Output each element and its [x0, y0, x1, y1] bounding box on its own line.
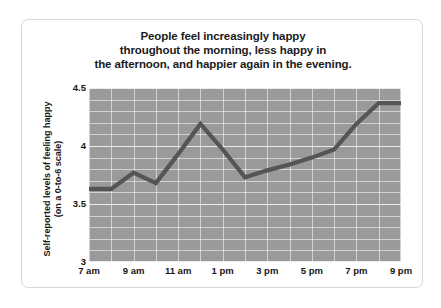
chart-card: People feel increasingly happy throughou…	[21, 19, 423, 288]
y-tick-label: 4	[60, 141, 86, 151]
chart-title-line-2: throughout the morning, less happy in	[22, 43, 424, 57]
happiness-line-series	[89, 88, 401, 262]
chart-title: People feel increasingly happy throughou…	[22, 29, 424, 72]
chart-title-line-3: the afternoon, and happier again in the …	[22, 57, 424, 71]
y-axis-tick-labels: 4.543.53	[56, 88, 86, 262]
x-tick-label: 9 am	[112, 265, 156, 276]
y-tick-label: 3.5	[60, 199, 86, 209]
x-tick-label: 7 am	[67, 265, 111, 276]
y-tick-label: 4.5	[60, 83, 86, 93]
x-tick-label: 7 pm	[334, 265, 378, 276]
x-axis-tick-labels: 7 am9 am11 am1 pm3 pm5 pm7 pm9 pm	[89, 265, 401, 279]
plot-area	[89, 88, 401, 262]
x-tick-label: 3 pm	[245, 265, 289, 276]
x-tick-label: 1 pm	[201, 265, 245, 276]
chart-title-line-1: People feel increasingly happy	[22, 29, 424, 43]
x-tick-label: 9 pm	[379, 265, 423, 276]
series-polyline	[89, 103, 401, 189]
y-axis-title-line-1: Self-reported levels of feeling happy	[42, 86, 53, 272]
x-tick-label: 5 pm	[290, 265, 334, 276]
x-tick-label: 11 am	[156, 265, 200, 276]
